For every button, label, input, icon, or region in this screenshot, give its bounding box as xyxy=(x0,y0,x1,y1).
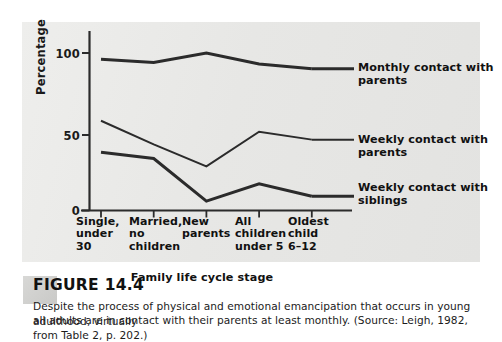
series-label-weekly-contact-parents: Weekly contact with parents xyxy=(358,134,488,159)
series-line-0 xyxy=(101,53,312,69)
chart-axes xyxy=(81,31,352,211)
series-label-weekly-contact-siblings: Weekly contact with siblings xyxy=(358,182,488,207)
series-line-1 xyxy=(101,121,312,167)
x-tick-label-new-parents: New parents xyxy=(182,216,234,241)
figure-number: FIGURE 14.4 xyxy=(33,276,144,294)
series-line-2 xyxy=(101,152,312,201)
figure-caption-line-2: all adults are in contact with their par… xyxy=(33,313,485,342)
x-tick-label-all-children-under-5: All children under 5 xyxy=(235,216,291,253)
series-label-monthly-contact-parents: Monthly contact with parents xyxy=(358,62,494,87)
chart-y-ticks xyxy=(82,53,90,211)
y-axis-title: Percentage xyxy=(34,19,48,95)
y-tick-label-100: 100 xyxy=(46,47,80,61)
chart-series-lines xyxy=(101,53,354,201)
x-tick-label-married-no-children: Married, no children xyxy=(129,216,187,253)
y-tick-label-50: 50 xyxy=(46,129,80,143)
x-tick-label-single-under-30: Single, under 30 xyxy=(76,216,132,253)
y-tick-label-0: 0 xyxy=(46,204,80,218)
x-tick-label-oldest-child-6-12: Oldest child 6–12 xyxy=(288,216,344,253)
